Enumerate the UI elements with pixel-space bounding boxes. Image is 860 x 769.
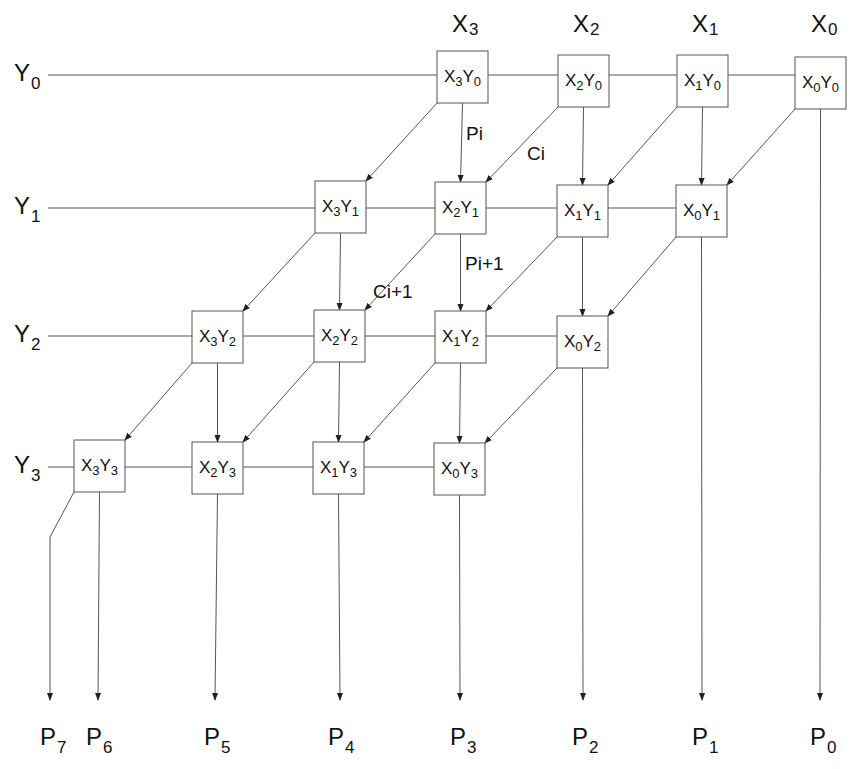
cell-y-letter: Y	[339, 458, 350, 477]
cell-x1y1: X1Y1	[557, 185, 608, 237]
cell-x0y2: X0Y2	[557, 316, 608, 368]
cell-y-index: 3	[350, 465, 357, 480]
cell-x3y1: X3Y1	[315, 181, 366, 233]
cell-x3y0: X3Y0	[437, 51, 488, 103]
column-label-0-main: X	[452, 10, 468, 37]
cell-x0y1: X0Y1	[676, 185, 727, 237]
cell-x-letter: X	[564, 201, 575, 220]
cell-x2y2: X2Y2	[314, 310, 365, 362]
p1-wire	[702, 237, 703, 700]
output-label-1: P6	[86, 723, 112, 757]
row-label-3-main: Y	[14, 451, 30, 478]
row-label-3: Y3	[14, 451, 40, 485]
cell-x0y0: X0Y0	[795, 57, 846, 109]
cell-y-index: 0	[474, 74, 481, 89]
row-label-3-sub: 3	[31, 466, 40, 485]
sum-wire	[461, 103, 463, 182]
cell-x-letter: X	[442, 198, 453, 217]
row-label-0: Y0	[14, 59, 40, 93]
output-label-5: P2	[572, 723, 598, 757]
cell-x-letter: X	[444, 67, 455, 86]
cell-x-letter: X	[564, 332, 575, 351]
cell-x1y0: X1Y0	[677, 55, 728, 107]
cell-x-index: 1	[331, 465, 338, 480]
column-label-0: X3	[452, 10, 478, 39]
sum-wire	[340, 233, 341, 310]
cell-y-letter: Y	[583, 201, 594, 220]
cell-x-index: 2	[210, 465, 217, 480]
output-label-4-sub: 3	[467, 738, 476, 757]
cell-x-index: 1	[575, 208, 582, 223]
output-label-7-sub: 0	[827, 738, 836, 757]
output-label-7-main: P	[810, 723, 826, 750]
row-label-1-main: Y	[14, 192, 30, 219]
cell-x-index: 2	[332, 333, 339, 348]
cell-x-index: 2	[576, 78, 583, 93]
cell-y-letter: Y	[463, 67, 474, 86]
cell-y-letter: Y	[461, 327, 472, 346]
column-label-3-sub: 0	[828, 20, 837, 39]
cell-x3y3: X3Y3	[74, 440, 125, 492]
p3-wire	[460, 495, 461, 700]
cell-y-index: 2	[229, 334, 236, 349]
cell-y-index: 2	[472, 334, 479, 349]
output-label-4-main: P	[450, 723, 466, 750]
cell-y-index: 3	[471, 466, 478, 481]
cell-y-letter: Y	[702, 201, 713, 220]
cell-x-index: 2	[453, 205, 460, 220]
p7-wire	[50, 492, 74, 700]
row-label-1: Y1	[14, 192, 40, 226]
cell-x-letter: X	[320, 458, 331, 477]
cell-y-index: 0	[832, 80, 839, 95]
output-label-7: P0	[810, 723, 836, 757]
cell-x-index: 1	[695, 78, 702, 93]
column-label-1-sub: 2	[590, 20, 599, 39]
row-label-2-main: Y	[14, 320, 30, 347]
sum-wire	[583, 107, 584, 185]
column-label-1: X2	[573, 10, 599, 39]
cell-y-letter: Y	[100, 456, 111, 475]
sum-wire	[460, 363, 461, 443]
annotation-pi1: Pi+1	[465, 253, 504, 274]
carry-wire	[486, 107, 558, 182]
p4-wire	[339, 494, 341, 700]
p2-wire	[583, 368, 584, 700]
output-label-5-main: P	[572, 723, 588, 750]
output-label-0: P7	[40, 723, 66, 757]
output-label-2: P5	[204, 723, 230, 757]
cell-x0y3: X0Y3	[434, 443, 485, 495]
row-label-0-main: Y	[14, 59, 30, 86]
cell-x-index: 1	[453, 334, 460, 349]
cell-x-letter: X	[322, 197, 333, 216]
cell-x3y2: X3Y2	[192, 311, 243, 363]
row-label-1-sub: 1	[31, 207, 40, 226]
cell-x-index: 0	[575, 339, 582, 354]
carry-wire	[243, 362, 314, 442]
cell-y-index: 3	[111, 463, 118, 478]
cell-y-letter: Y	[703, 71, 714, 90]
cell-x-index: 0	[813, 80, 820, 95]
cell-y-index: 2	[351, 333, 358, 348]
cell-y-letter: Y	[584, 71, 595, 90]
carry-wire	[727, 109, 795, 185]
cell-y-index: 0	[595, 78, 602, 93]
p0-wire	[820, 109, 821, 700]
array-multiplier-diagram: X3Y0X2Y0X1Y0X0Y0X3Y1X2Y1X1Y1X0Y1X3Y2X2Y2…	[0, 0, 860, 769]
cell-x1y2: X1Y2	[435, 311, 486, 363]
output-label-3: P4	[328, 723, 354, 757]
cell-x2y1: X2Y1	[435, 182, 486, 234]
cell-x-index: 3	[210, 334, 217, 349]
annotation-ci: Ci	[527, 143, 545, 164]
cell-y-index: 3	[229, 465, 236, 480]
column-label-1-main: X	[573, 10, 589, 37]
carry-wire	[364, 363, 435, 442]
column-label-0-sub: 3	[469, 20, 478, 39]
carry-wire	[608, 237, 676, 316]
annotation-pi: Pi	[466, 123, 483, 144]
output-label-0-sub: 7	[57, 738, 66, 757]
cell-y-letter: Y	[340, 326, 351, 345]
cell-y-letter: Y	[821, 73, 832, 92]
cell-y-letter: Y	[461, 198, 472, 217]
cell-y-index: 2	[594, 339, 601, 354]
cell-x2y3: X2Y3	[192, 442, 243, 494]
